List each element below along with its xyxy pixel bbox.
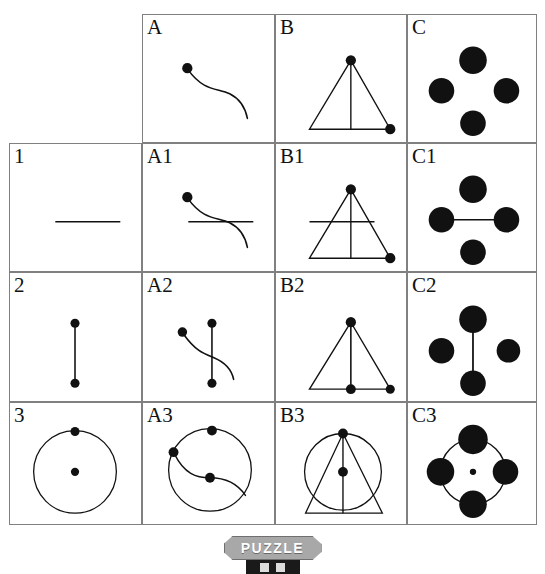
dot-right	[494, 78, 520, 104]
badge-stand	[246, 560, 300, 574]
badge-stand-block-left	[260, 563, 269, 572]
dot-right	[493, 459, 519, 485]
dot-bottom	[460, 110, 486, 136]
dot-left	[429, 338, 455, 364]
figure-triangle-plus-line	[276, 144, 406, 271]
dot-center-small	[470, 469, 476, 475]
badge-label: PUZZLE	[224, 536, 322, 560]
figure-circle-plus-triangle	[276, 403, 406, 524]
grid-cell-2[interactable]: 2	[9, 272, 142, 402]
figure-curve-plus-vertical	[143, 273, 274, 401]
grid-cell-A3[interactable]: A3	[142, 402, 275, 525]
dot-top	[459, 47, 487, 75]
dot-center	[71, 468, 79, 476]
dot-top	[459, 305, 487, 333]
dot-bottom	[70, 379, 79, 388]
figure-curve-plus-line	[143, 144, 274, 271]
dot-left	[427, 458, 455, 486]
dot-apex	[346, 317, 356, 327]
dot-on-circle-left	[169, 447, 179, 457]
badge-stand-block-right	[276, 563, 285, 572]
figure-horizontal-line	[10, 144, 141, 271]
figure-circle	[10, 403, 141, 524]
grid-cell-B[interactable]: B	[275, 14, 407, 143]
dot-apex	[346, 184, 356, 194]
figure-dots-plus-line	[408, 144, 536, 271]
dot-curve-start	[182, 63, 192, 73]
dot-center	[205, 473, 215, 483]
grid-cell-1[interactable]: 1	[9, 143, 142, 272]
dot-right	[494, 207, 520, 233]
grid-cell-A[interactable]: A	[142, 14, 275, 143]
grid-cell-corner	[9, 14, 142, 143]
grid-cell-A2[interactable]: A2	[142, 272, 275, 402]
dot-right	[497, 339, 521, 363]
figure-s-curve	[143, 15, 274, 142]
figure-circle-plus-curve	[143, 403, 274, 524]
dot-curve-start	[182, 192, 192, 202]
dot-bottom	[460, 239, 486, 265]
dot-bottom-right	[385, 124, 395, 134]
puzzle-badge: PUZZLE	[224, 536, 322, 560]
dot-bottom	[207, 379, 216, 388]
dot-top	[458, 425, 488, 455]
grid-cell-C3[interactable]: C3	[407, 402, 537, 525]
dot-on-circle-top	[207, 426, 217, 436]
figure-triangle	[276, 15, 406, 142]
dot-left	[429, 207, 455, 233]
dot-left	[429, 78, 455, 104]
dot-top	[70, 319, 79, 328]
grid-cell-C1[interactable]: C1	[407, 143, 537, 272]
dot-mid-bottom	[346, 384, 356, 394]
figure-triangle-plus-vertical	[276, 273, 406, 401]
dot-on-circle-top	[70, 427, 79, 436]
grid-cell-3[interactable]: 3	[9, 402, 142, 525]
dot-apex	[346, 55, 356, 65]
figure-circle-plus-dots	[408, 403, 536, 524]
figure-four-dots	[408, 15, 536, 142]
figure-vertical-line	[10, 273, 141, 401]
dot-top	[459, 176, 487, 204]
grid-cell-B2[interactable]: B2	[275, 272, 407, 402]
grid-cell-B1[interactable]: B1	[275, 143, 407, 272]
dot-center	[338, 467, 348, 477]
dot-bottom-right	[386, 385, 395, 394]
grid-cell-C2[interactable]: C2	[407, 272, 537, 402]
dot-bottom	[460, 370, 486, 396]
puzzle-grid: A B C 1 A1	[9, 14, 537, 525]
dot-apex	[338, 429, 348, 439]
figure-dots-plus-vertical	[408, 273, 536, 401]
dot-bottom	[459, 491, 487, 519]
grid-cell-C[interactable]: C	[407, 14, 537, 143]
dot-curve-start	[178, 327, 187, 336]
grid-cell-A1[interactable]: A1	[142, 143, 275, 272]
dot-top	[207, 319, 216, 328]
grid-cell-B3[interactable]: B3	[275, 402, 407, 525]
dot-bottom-right	[385, 253, 395, 263]
